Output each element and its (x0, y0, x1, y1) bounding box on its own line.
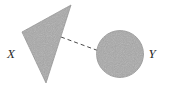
figure-background (0, 0, 172, 93)
circle-set-y (97, 31, 144, 78)
label-x: X (6, 46, 16, 61)
figure-container: X Y (0, 0, 172, 93)
diagram-canvas: X Y (0, 0, 172, 93)
